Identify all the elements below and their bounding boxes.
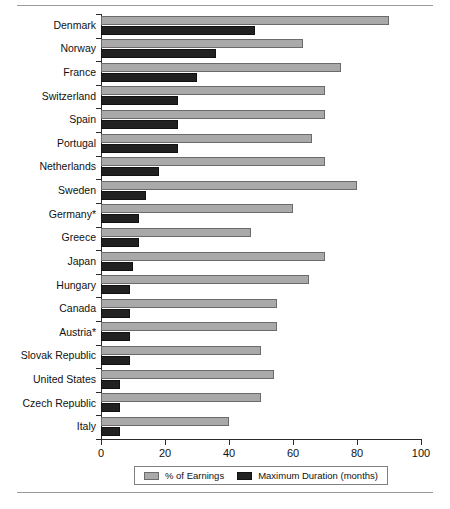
y-axis-tick (96, 297, 101, 298)
bar-pct-of-earnings (101, 252, 325, 261)
bar-pct-of-earnings (101, 275, 309, 284)
x-axis-tick (165, 440, 166, 445)
bar-group (101, 85, 421, 109)
bar-group (101, 132, 421, 156)
x-axis-tick (229, 440, 230, 445)
bar-group (101, 321, 421, 345)
plot-area (101, 14, 421, 439)
bar-group (101, 14, 421, 38)
bar-maximum-duration (101, 73, 197, 82)
legend-item: Maximum Duration (months) (237, 471, 378, 481)
category-label: Sweden (4, 185, 96, 196)
x-axis-tick-label: 40 (223, 447, 235, 459)
category-label: Czech Republic (4, 398, 96, 409)
bar-maximum-duration (101, 309, 130, 318)
x-axis-tick (101, 440, 102, 445)
bar-pct-of-earnings (101, 393, 261, 402)
bar-pct-of-earnings (101, 63, 341, 72)
bar-group (101, 415, 421, 439)
bar-pct-of-earnings (101, 322, 277, 331)
bar-group (101, 227, 421, 251)
bar-pct-of-earnings (101, 86, 325, 95)
legend-swatch-pct-of-earnings (144, 472, 159, 480)
category-label: Japan (4, 256, 96, 267)
bar-maximum-duration (101, 96, 178, 105)
bar-group (101, 38, 421, 62)
bar-group (101, 179, 421, 203)
bar-group (101, 203, 421, 227)
bar-maximum-duration (101, 167, 159, 176)
category-label: Slovak Republic (4, 350, 96, 361)
chart-legend: % of EarningsMaximum Duration (months) (134, 466, 388, 485)
bar-group (101, 156, 421, 180)
y-axis-tick (96, 156, 101, 157)
bar-maximum-duration (101, 49, 216, 58)
bar-pct-of-earnings (101, 228, 251, 237)
category-label: United States (4, 374, 96, 385)
bar-maximum-duration (101, 332, 130, 341)
y-axis-tick (96, 179, 101, 180)
legend-item: % of Earnings (144, 471, 224, 481)
bar-maximum-duration (101, 356, 130, 365)
bar-pct-of-earnings (101, 157, 325, 166)
x-axis-tick-label: 20 (159, 447, 171, 459)
y-axis-tick (96, 38, 101, 39)
category-label: Spain (4, 114, 96, 125)
bottom-divider-rule (17, 492, 433, 493)
bar-group (101, 274, 421, 298)
category-label: Italy (4, 421, 96, 432)
x-axis-tick-label: 80 (351, 447, 363, 459)
bar-pct-of-earnings (101, 346, 261, 355)
y-axis-tick (96, 108, 101, 109)
bar-pct-of-earnings (101, 417, 229, 426)
x-axis-tick (421, 440, 422, 445)
bar-group (101, 345, 421, 369)
bar-pct-of-earnings (101, 299, 277, 308)
y-axis-tick (96, 368, 101, 369)
category-label: Denmark (4, 20, 96, 31)
category-label: Hungary (4, 280, 96, 291)
bar-group (101, 61, 421, 85)
bar-maximum-duration (101, 120, 178, 129)
category-label: Switzerland (4, 91, 96, 102)
category-axis-labels: DenmarkNorwayFranceSwitzerlandSpainPortu… (0, 14, 96, 439)
y-axis-tick (96, 14, 101, 15)
category-label: Austria* (4, 327, 96, 338)
category-label: Portugal (4, 138, 96, 149)
top-divider-rule (17, 5, 433, 6)
legend-label: % of Earnings (165, 471, 224, 481)
y-axis-tick (96, 61, 101, 62)
y-axis-tick (96, 392, 101, 393)
category-label: Canada (4, 303, 96, 314)
bar-maximum-duration (101, 403, 120, 412)
y-axis-tick (96, 321, 101, 322)
y-axis-tick (96, 415, 101, 416)
bar-maximum-duration (101, 427, 120, 436)
bar-pct-of-earnings (101, 39, 303, 48)
bar-maximum-duration (101, 214, 139, 223)
bar-pct-of-earnings (101, 16, 389, 25)
category-label: Greece (4, 232, 96, 243)
category-label: Germany* (4, 209, 96, 220)
x-axis-tick-label: 100 (412, 447, 430, 459)
bar-maximum-duration (101, 238, 139, 247)
y-axis-tick (96, 274, 101, 275)
bar-group (101, 297, 421, 321)
category-label: France (4, 67, 96, 78)
legend-swatch-maximum-duration (237, 472, 252, 480)
bar-maximum-duration (101, 380, 120, 389)
bar-maximum-duration (101, 285, 130, 294)
y-axis-tick (96, 203, 101, 204)
category-label: Norway (4, 43, 96, 54)
bar-pct-of-earnings (101, 370, 274, 379)
bar-pct-of-earnings (101, 204, 293, 213)
bar-maximum-duration (101, 191, 146, 200)
bar-group (101, 392, 421, 416)
y-axis-tick (96, 85, 101, 86)
bar-maximum-duration (101, 26, 255, 35)
legend-label: Maximum Duration (months) (258, 471, 378, 481)
y-axis-tick (96, 250, 101, 251)
x-axis-line (101, 439, 422, 440)
x-axis-tick (293, 440, 294, 445)
y-axis-tick (96, 227, 101, 228)
